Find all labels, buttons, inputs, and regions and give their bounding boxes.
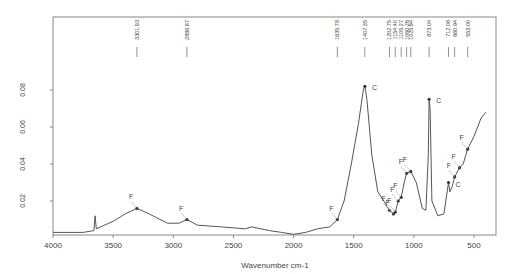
annotation-label: C [436, 97, 441, 104]
annotation-label: F [447, 162, 451, 169]
peak-labels: 3301.932886.871635.781407.351202.751154.… [134, 20, 471, 57]
x-axis: 4000350030002500200015001000500 [44, 235, 481, 250]
annotation-label: F [460, 134, 464, 141]
annotations: FFFCFFFFFFFCCFFF [129, 84, 469, 221]
x-tick-label: 500 [467, 241, 481, 250]
y-axis: 0.020.040.060.08 [19, 83, 53, 208]
spectrum-line [53, 86, 486, 234]
peak-label: 873.04 [426, 20, 432, 37]
y-tick-label: 0.08 [19, 83, 26, 97]
annotation-label: F [179, 205, 183, 212]
annotation-label: F [403, 156, 407, 163]
peak-label: 3301.93 [134, 20, 140, 40]
plot-frame [53, 17, 496, 235]
peak-label: 1025.94 [408, 20, 414, 40]
annotation-label: F [393, 182, 397, 189]
x-tick-label: 2000 [285, 241, 303, 250]
peak-label: 553.00 [465, 20, 471, 37]
annotation-label: F [329, 205, 333, 212]
peak-label: 660.94 [452, 20, 458, 37]
annotation-label: F [452, 153, 456, 160]
annotation-label: C [372, 84, 377, 91]
y-tick-label: 0.06 [19, 120, 26, 134]
y-tick-label: 0.02 [19, 194, 26, 208]
annotation-label: F [387, 197, 391, 204]
peak-label: 1635.78 [334, 20, 340, 40]
x-tick-label: 1500 [345, 241, 363, 250]
x-tick-label: 3500 [104, 241, 122, 250]
x-axis-label: Wavenumber cm-1 [241, 261, 309, 270]
x-tick-label: 1000 [405, 241, 423, 250]
x-tick-label: 3000 [164, 241, 182, 250]
peak-label: 1407.35 [362, 20, 368, 40]
x-tick-label: 4000 [44, 241, 62, 250]
peak-label: 2886.87 [184, 20, 190, 40]
x-tick-label: 2500 [225, 241, 243, 250]
ftir-spectrum-chart: 0.020.040.060.08 40003500300025002000150… [0, 0, 517, 274]
annotation-label: F [129, 193, 133, 200]
peak-label: 712.08 [445, 20, 451, 37]
annotation-label: C [455, 181, 460, 188]
y-tick-label: 0.04 [19, 157, 26, 171]
